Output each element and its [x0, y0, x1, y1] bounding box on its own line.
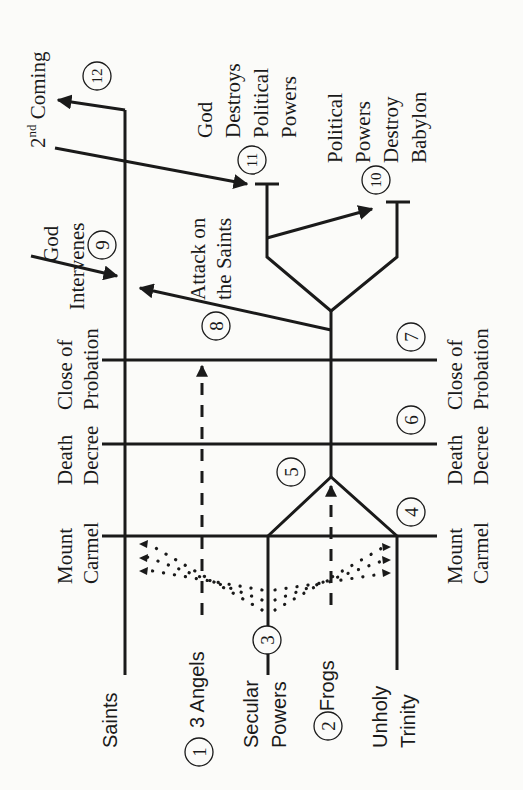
label-mount-carmel-right: Mount Carmel: [443, 522, 493, 584]
svg-text:7: 7: [401, 332, 422, 342]
label-death-decree-left: Death Decree: [53, 426, 103, 485]
svg-text:8: 8: [206, 321, 227, 331]
svg-text:Political: Political: [249, 68, 273, 138]
marker-8: 8: [202, 312, 230, 340]
svg-text:Destroys: Destroys: [221, 63, 245, 138]
marker-10: 10: [362, 166, 390, 194]
svg-text:Mount: Mount: [53, 528, 77, 584]
marker-11: 11: [238, 146, 266, 174]
svg-text:Decree: Decree: [469, 426, 493, 485]
svg-text:Powers: Powers: [277, 76, 301, 138]
svg-text:6: 6: [401, 415, 422, 425]
svg-text:Saints: Saints: [99, 692, 121, 748]
svg-text:3: 3: [257, 635, 278, 645]
arrow-12: [58, 100, 125, 110]
svg-text:1: 1: [189, 747, 210, 757]
svg-text:Carmel: Carmel: [469, 522, 493, 584]
svg-text:Close of: Close of: [53, 339, 77, 410]
label-close-of-probation-left: Close of Probation: [53, 328, 103, 410]
svg-text:Secular: Secular: [240, 680, 262, 748]
marker-5: 5: [277, 458, 305, 486]
svg-text:Trinity: Trinity: [397, 694, 419, 748]
svg-text:3 Angels: 3 Angels: [186, 651, 208, 728]
svg-text:Powers: Powers: [351, 101, 375, 163]
svg-text:Mount: Mount: [443, 528, 467, 584]
dotted-influence-lines: [139, 540, 391, 610]
svg-text:2nd Coming: 2nd Coming: [24, 51, 50, 148]
label-saints: Saints: [99, 692, 121, 748]
marker-2: 2: [314, 712, 342, 740]
arrow-10: [267, 209, 372, 238]
label-political-powers-destroy-babylon: Political Powers Destroy Babylon: [323, 91, 431, 163]
svg-text:God: God: [39, 225, 63, 262]
marker-9: 9: [88, 231, 116, 259]
prophetic-timeline-diagram: Mount Carmel Death Decree Close of Proba…: [0, 0, 523, 790]
label-second-coming: 2nd Coming: [24, 51, 50, 148]
marker-4: 4: [397, 498, 425, 526]
svg-text:11: 11: [244, 153, 260, 167]
label-mount-carmel-left: Mount Carmel: [53, 522, 103, 584]
svg-text:Probation: Probation: [469, 328, 493, 410]
svg-text:Death: Death: [443, 434, 467, 485]
svg-text:5: 5: [281, 467, 302, 477]
svg-text:Political: Political: [323, 93, 347, 163]
marker-7: 7: [397, 323, 425, 351]
marker-12: 12: [83, 62, 111, 90]
svg-text:4: 4: [401, 507, 422, 517]
svg-text:Decree: Decree: [79, 426, 103, 485]
svg-text:12: 12: [89, 69, 105, 84]
svg-text:Babylon: Babylon: [407, 91, 431, 163]
svg-text:Powers: Powers: [268, 681, 290, 748]
label-secular-powers: Secular Powers: [240, 680, 290, 748]
svg-text:Unholy: Unholy: [369, 686, 391, 748]
label-attack-on-saints: Attack on the Saints: [186, 217, 236, 300]
label-close-of-probation-right: Close of Probation: [443, 328, 493, 410]
svg-text:God: God: [193, 101, 217, 138]
svg-text:Intervenes: Intervenes: [65, 223, 89, 310]
svg-text:Death: Death: [53, 434, 77, 485]
marker-3: 3: [253, 626, 281, 654]
label-unholy-trinity: Unholy Trinity: [369, 686, 419, 748]
marker-1: 1: [185, 738, 213, 766]
svg-text:Carmel: Carmel: [79, 522, 103, 584]
label-god-intervenes: God Intervenes: [39, 223, 89, 310]
label-three-angels: 3 Angels: [186, 651, 208, 728]
arrow-11-second-coming: [55, 148, 247, 184]
svg-text:Close of: Close of: [443, 339, 467, 410]
svg-text:Attack on: Attack on: [186, 217, 210, 300]
svg-text:Destroy: Destroy: [379, 96, 403, 163]
svg-text:Probation: Probation: [79, 328, 103, 410]
label-death-decree-right: Death Decree: [443, 426, 493, 485]
svg-text:2: 2: [318, 721, 339, 731]
label-god-destroys-political-powers: God Destroys Political Powers: [193, 63, 301, 138]
marker-6: 6: [397, 406, 425, 434]
split-left: [267, 184, 331, 311]
svg-text:10: 10: [368, 173, 384, 188]
svg-text:the Saints: the Saints: [212, 218, 236, 300]
svg-text:9: 9: [92, 240, 113, 250]
